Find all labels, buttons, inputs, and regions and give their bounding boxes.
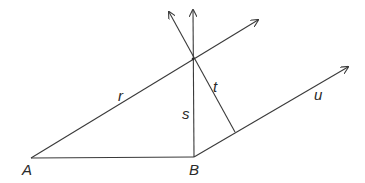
segment-ab	[31, 157, 194, 158]
line-s	[193, 10, 194, 157]
label-point-a: A	[21, 161, 32, 178]
label-point-b: B	[189, 161, 199, 178]
line-t	[169, 12, 235, 132]
geometry-diagram: r s t u A B	[0, 0, 365, 183]
label-u: u	[314, 86, 323, 103]
intersection-point	[192, 58, 195, 61]
label-t: t	[213, 78, 218, 95]
label-s: s	[182, 105, 190, 122]
line-r	[31, 20, 258, 158]
